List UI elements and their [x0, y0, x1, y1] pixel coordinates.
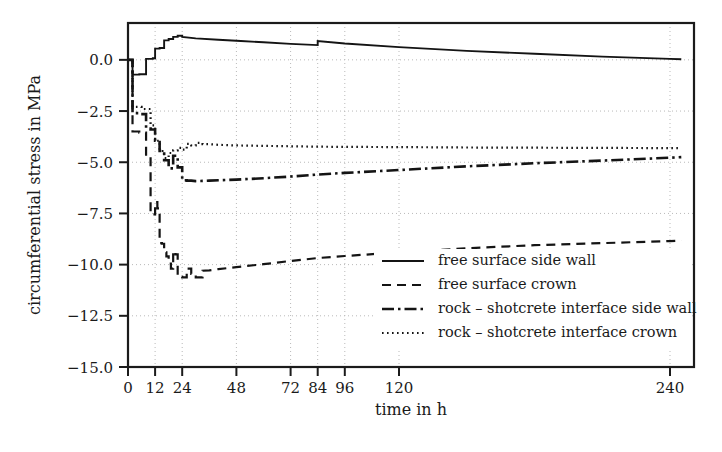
xtick-label-12: 12	[146, 379, 165, 397]
legend-label-2: rock – shotcrete interface side wall	[438, 300, 697, 316]
chart-legend: free surface side wallfree surface crown…	[374, 249, 697, 349]
legend-label-3: rock – shotcrete interface crown	[438, 324, 677, 340]
ytick-label--12.5: −12.5	[67, 307, 113, 325]
ytick-label--7.5: −7.5	[77, 205, 113, 223]
x-axis-title: time in h	[375, 400, 447, 419]
ytick-label-0: 0.0	[89, 51, 113, 69]
xtick-label-24: 24	[173, 379, 192, 397]
ytick-label--2.5: −2.5	[77, 103, 113, 121]
legend-label-0: free surface side wall	[438, 252, 596, 268]
xtick-label-96: 96	[335, 379, 354, 397]
xtick-label-0: 0	[123, 379, 133, 397]
xtick-label-240: 240	[656, 379, 685, 397]
y-axis-title: circumferential stress in MPa	[25, 75, 44, 315]
xtick-label-84: 84	[308, 379, 327, 397]
ytick-label--5: −5.0	[77, 154, 113, 172]
ytick-label--15: −15.0	[67, 359, 113, 377]
xtick-label-48: 48	[227, 379, 246, 397]
chart-figure: 0122448728496120240 0.0−2.5−5.0−7.5−10.0…	[0, 0, 722, 452]
stress-time-line-chart: 0122448728496120240 0.0−2.5−5.0−7.5−10.0…	[0, 0, 722, 452]
xtick-label-120: 120	[385, 379, 414, 397]
xtick-label-72: 72	[281, 379, 300, 397]
ytick-label--10: −10.0	[67, 256, 113, 274]
legend-label-1: free surface crown	[438, 276, 577, 292]
